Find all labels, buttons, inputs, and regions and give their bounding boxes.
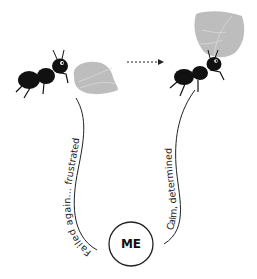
right-leaf-icon (194, 11, 244, 57)
diagram-canvas: Failed again... frustrated Calm, determi… (0, 0, 257, 279)
left-leaf-icon (74, 62, 118, 94)
me-label: ME (121, 237, 141, 251)
right-ant-icon (170, 50, 224, 96)
left-connector-line (74, 98, 97, 250)
left-ant-icon (16, 50, 68, 98)
left-state-label: Failed again... frustrated (61, 137, 93, 259)
